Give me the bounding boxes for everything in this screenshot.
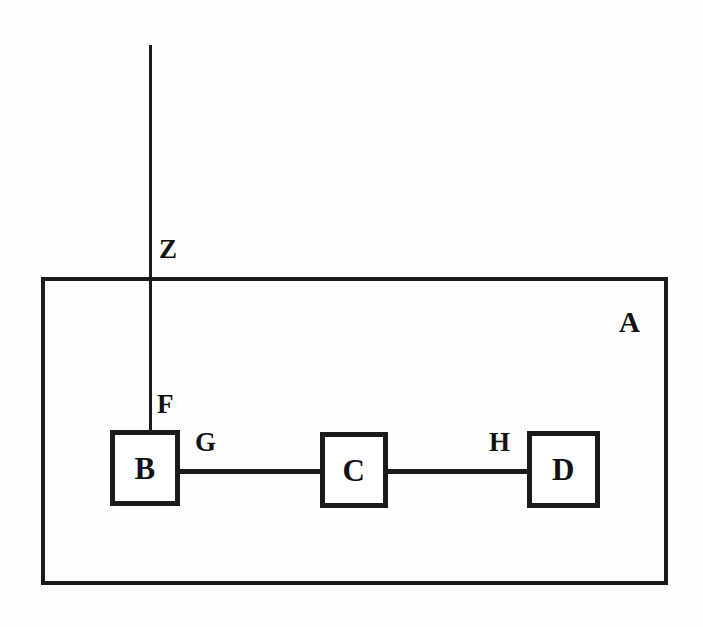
label-a: A — [619, 308, 640, 337]
diagram-canvas: A B C D Z F G H — [0, 0, 703, 627]
wire-c-to-d-link — [386, 469, 529, 474]
block-b: B — [110, 430, 180, 506]
block-c: C — [320, 432, 388, 508]
wire-label-h: H — [489, 429, 510, 456]
block-c-label: C — [343, 455, 366, 486]
block-d-label: D — [552, 454, 575, 485]
block-d: D — [527, 431, 600, 508]
wire-label-f: F — [157, 391, 174, 418]
wire-label-z: Z — [159, 236, 177, 263]
block-b-label: B — [134, 453, 155, 484]
wire-label-g: G — [195, 429, 216, 456]
wire-b-to-c-link — [178, 469, 322, 474]
wire-vertical-trunk-into-b — [149, 45, 152, 432]
